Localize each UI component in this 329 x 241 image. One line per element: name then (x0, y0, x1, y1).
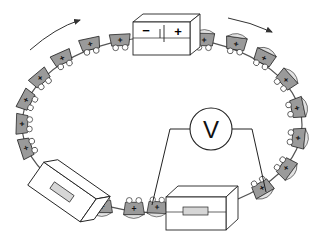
direction-arrow-right (228, 18, 272, 32)
station-box-bottom (166, 186, 238, 230)
cart-group-left (16, 34, 131, 160)
battery-box: − + (133, 14, 200, 55)
voltmeter-label: V (203, 116, 219, 143)
battery-positive-label: + (174, 24, 182, 39)
cart-loop-diagram: + + (0, 0, 329, 241)
direction-arrow-left (30, 20, 80, 50)
diagram-canvas: + + (0, 0, 329, 241)
battery-negative-label: − (142, 23, 150, 38)
station-box-left (28, 154, 110, 228)
